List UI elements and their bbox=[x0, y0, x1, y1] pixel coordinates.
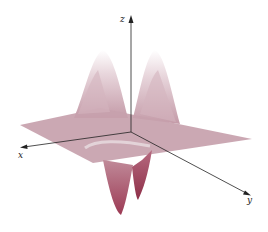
trough-left bbox=[103, 160, 133, 215]
y-axis-label: y bbox=[246, 195, 253, 205]
base-plane bbox=[20, 108, 252, 163]
trough-right bbox=[132, 150, 152, 200]
z-arrow-icon bbox=[129, 15, 134, 23]
x-axis-label: x bbox=[18, 150, 23, 160]
x-arrow-icon bbox=[20, 145, 28, 150]
surface-plot: z x y bbox=[0, 0, 268, 232]
z-axis-label: z bbox=[119, 14, 125, 24]
